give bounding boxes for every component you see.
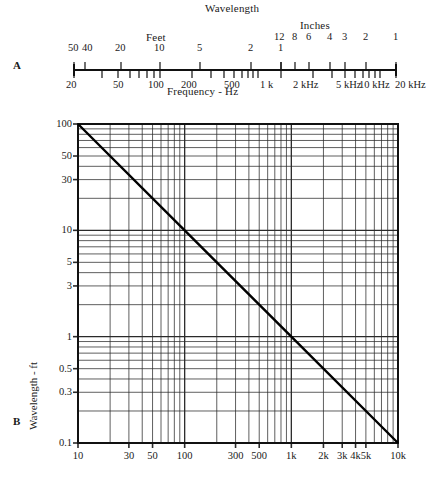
freq-tick-50: 50 bbox=[113, 79, 124, 90]
y-tick-label-10: 10 bbox=[20, 224, 72, 235]
inches-tick-1: 1 bbox=[393, 31, 398, 42]
y-tick-label-5: 5 bbox=[20, 256, 72, 267]
feet-tick-2: 2 bbox=[248, 42, 253, 53]
panel-a-ruler: Wavelength Inches Feet A bbox=[0, 0, 429, 110]
x-tick-label-5k: 5k bbox=[350, 450, 382, 461]
freq-tick-20kHz: 20 kHz bbox=[395, 79, 426, 90]
inches-tick-12: 12 bbox=[274, 31, 285, 42]
freq-tick-2kHz: 2 kHz bbox=[293, 79, 318, 90]
panel-a-x-axis-title: Frequency - Hz bbox=[167, 85, 238, 97]
x-tick-label-10: 10 bbox=[62, 450, 94, 461]
feet-tick-1: 1 bbox=[278, 42, 283, 53]
y-tick-label-50: 50 bbox=[20, 150, 72, 161]
freq-tick-1k: 1 k bbox=[260, 79, 273, 90]
x-tick-label-100: 100 bbox=[169, 450, 201, 461]
inches-tick-6: 6 bbox=[306, 31, 311, 42]
x-tick-label-1k: 1k bbox=[275, 450, 307, 461]
y-tick-label-3: 3 bbox=[20, 280, 72, 291]
inches-tick-3: 3 bbox=[342, 31, 347, 42]
y-tick-label-0.3: 0.3 bbox=[20, 386, 72, 397]
inches-tick-2: 2 bbox=[363, 31, 368, 42]
feet-tick-40: 40 bbox=[82, 42, 93, 53]
freq-tick-20: 20 bbox=[66, 79, 77, 90]
feet-tick-20: 20 bbox=[115, 42, 126, 53]
y-tick-label-100: 100 bbox=[20, 118, 72, 129]
panel-b-chart: B Wavelength - ft 1005030105310.50.30.1 … bbox=[0, 105, 429, 491]
inches-tick-4: 4 bbox=[327, 31, 332, 42]
feet-tick-10: 10 bbox=[154, 42, 165, 53]
feet-tick-5: 5 bbox=[197, 42, 202, 53]
log-log-grid bbox=[0, 105, 429, 491]
data-series-wavelength bbox=[78, 124, 398, 443]
freq-tick-100: 100 bbox=[148, 79, 164, 90]
feet-tick-50: 50 bbox=[68, 42, 79, 53]
y-tick-label-30: 30 bbox=[20, 174, 72, 185]
x-tick-label-10k: 10k bbox=[382, 450, 414, 461]
x-tick-label-500: 500 bbox=[243, 450, 275, 461]
y-tick-label-0.5: 0.5 bbox=[20, 363, 72, 374]
y-tick-label-1: 1 bbox=[20, 331, 72, 342]
freq-tick-5kHz: 5 kHz bbox=[336, 79, 361, 90]
x-tick-label-50: 50 bbox=[137, 450, 169, 461]
y-tick-label-0.1: 0.1 bbox=[20, 437, 72, 448]
freq-tick-10kHz: 10 kHz bbox=[359, 79, 390, 90]
inches-tick-8: 8 bbox=[292, 31, 297, 42]
